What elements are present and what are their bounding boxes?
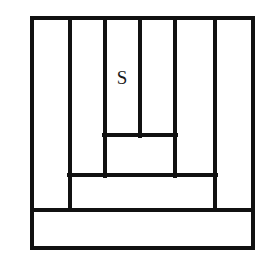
region-labels-group: S xyxy=(117,67,128,88)
figure-canvas: S xyxy=(0,0,261,267)
dissection-diagram: S xyxy=(0,0,261,267)
region-label-s: S xyxy=(117,67,128,88)
